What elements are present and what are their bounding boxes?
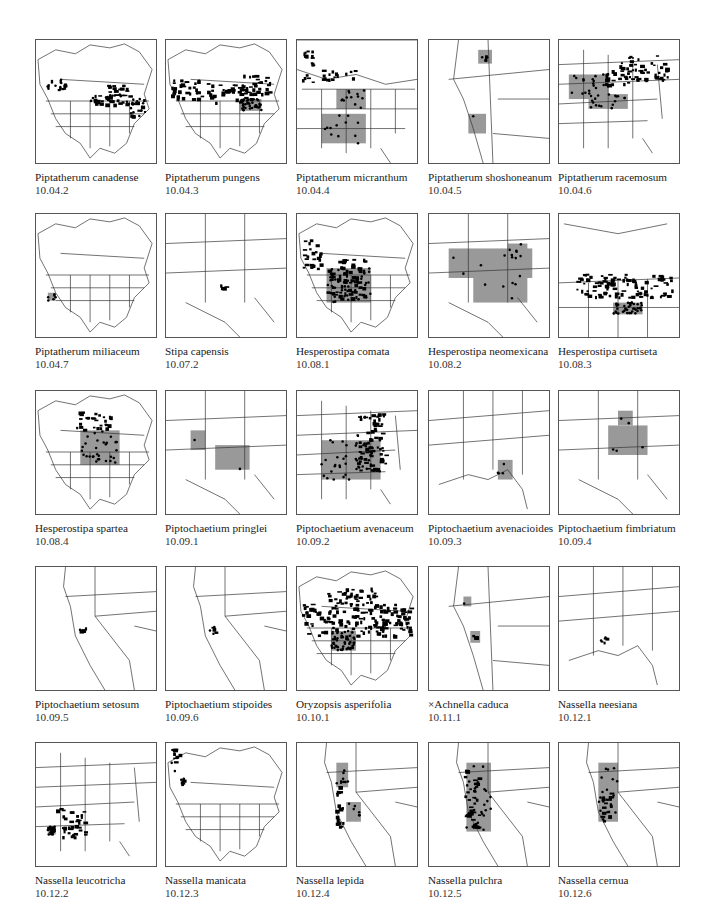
occurrence-dot [601, 791, 604, 794]
distribution-map [35, 39, 157, 164]
occurrence-dot [600, 776, 603, 779]
occurrence-dot [92, 97, 95, 100]
occurrence-dot [332, 642, 335, 645]
occurrence-dot [594, 97, 597, 100]
occurrence-dot [254, 105, 257, 108]
occurrence-dot [511, 297, 514, 300]
occurrence-dot [251, 101, 254, 104]
map-caption: Piptatherum pungens10.04.3 [165, 171, 289, 197]
occurrence-dot [348, 289, 351, 292]
occurrence-dot [259, 104, 262, 107]
occurrence-dot [473, 790, 476, 793]
occurrence-dot [349, 635, 352, 638]
distribution-map-panel: Piptatherum canadense10.04.2 [35, 39, 159, 197]
map-caption: Nassella neesiana10.12.1 [558, 698, 682, 724]
occurrence-dot [489, 796, 492, 799]
occurrence-dot [340, 649, 343, 652]
occurrence-dot [363, 294, 366, 297]
occurrence-dot [367, 281, 370, 284]
occurrence-dot [364, 284, 367, 287]
occurrence-dot [584, 92, 587, 95]
occurrence-dot [107, 105, 110, 108]
occurrence-dot [111, 94, 114, 97]
species-name: Nassella pulchra [428, 874, 552, 887]
distribution-map [35, 566, 157, 691]
occurrence-dot [342, 268, 345, 271]
occurrence-dot [84, 631, 87, 634]
occurrence-dot [351, 631, 354, 634]
occurrence-dot [482, 814, 485, 817]
occurrence-dot [595, 87, 598, 90]
occurrence-dot [360, 458, 363, 461]
occurrence-dot [365, 296, 368, 299]
range-area [498, 460, 513, 480]
species-code: 10.10.1 [296, 711, 420, 724]
occurrence-dot [358, 466, 361, 469]
occurrence-dot [627, 422, 630, 425]
occurrence-dot [469, 814, 472, 817]
distribution-map [428, 39, 550, 164]
species-name: Piptatherum shoshoneanum [428, 171, 552, 184]
map-caption: Piptochaetium avenaceum10.09.2 [296, 522, 420, 548]
occurrence-dot [355, 442, 358, 445]
occurrence-dot [246, 99, 249, 102]
occurrence-dot [140, 109, 143, 112]
distribution-map [428, 566, 550, 691]
species-name: Piptatherum racemosum [558, 171, 682, 184]
map-boundaries [449, 567, 549, 690]
occurrence-dot [333, 636, 336, 639]
occurrence-dot [360, 277, 363, 280]
occurrence-dot [242, 103, 245, 106]
occurrence-dot [252, 98, 255, 101]
occurrence-dot [582, 79, 585, 82]
occurrence-dot [519, 275, 522, 278]
species-code: 10.04.3 [165, 184, 289, 197]
occurrence-dot [503, 463, 506, 466]
occurrence-dot [180, 778, 183, 781]
occurrence-dot [113, 457, 116, 460]
distribution-map [165, 213, 287, 338]
distribution-map [35, 213, 157, 338]
occurrence-dot [497, 472, 500, 475]
occurrence-dot [105, 443, 108, 446]
distribution-map-panel: Piptochaetium pringlei10.09.1 [165, 390, 289, 548]
occurrence-dot [351, 291, 354, 294]
distribution-map [165, 742, 287, 867]
occurrence-dot [357, 95, 360, 98]
occurrence-dot [608, 93, 611, 96]
occurrence-dot [519, 255, 522, 258]
occurrence-dot [466, 770, 469, 773]
occurrence-dot [373, 450, 376, 453]
species-name: Hesperostipa neomexicana [428, 345, 552, 358]
map-boundaries [559, 567, 679, 685]
occurrence-dot [612, 103, 615, 106]
range-area [468, 114, 486, 134]
distribution-map-panel: Nassella lepida10.12.4 [296, 742, 420, 900]
range-area [336, 763, 348, 788]
occurrence-dot [84, 442, 87, 445]
occurrence-dot [324, 128, 327, 131]
occurrence-dot [628, 305, 631, 308]
occurrence-dot [106, 98, 109, 101]
distribution-map [296, 390, 418, 515]
occurrence-dot [615, 302, 618, 305]
occurrence-dot [354, 103, 357, 106]
occurrence-dot [484, 283, 487, 286]
occurrence-dot [612, 778, 615, 781]
occurrence-dot [571, 91, 574, 94]
occurrence-dot [126, 101, 129, 104]
occurrence-dot [347, 630, 350, 633]
species-name: Nassella lepida [296, 874, 420, 887]
species-code: 10.07.2 [165, 358, 289, 371]
distribution-map-panel: Stipa capensis10.07.2 [165, 213, 289, 371]
occurrence-dot [345, 444, 348, 447]
species-name: Piptatherum pungens [165, 171, 289, 184]
occurrence-dot [465, 814, 468, 817]
map-caption: Hesperostipa neomexicana10.08.2 [428, 345, 552, 371]
occurrence-dot [331, 441, 334, 444]
distribution-map [296, 213, 418, 338]
occurrence-dot [347, 279, 350, 282]
occurrence-dot [332, 301, 335, 304]
occurrence-dot [343, 769, 346, 772]
occurrence-dot [511, 254, 514, 257]
